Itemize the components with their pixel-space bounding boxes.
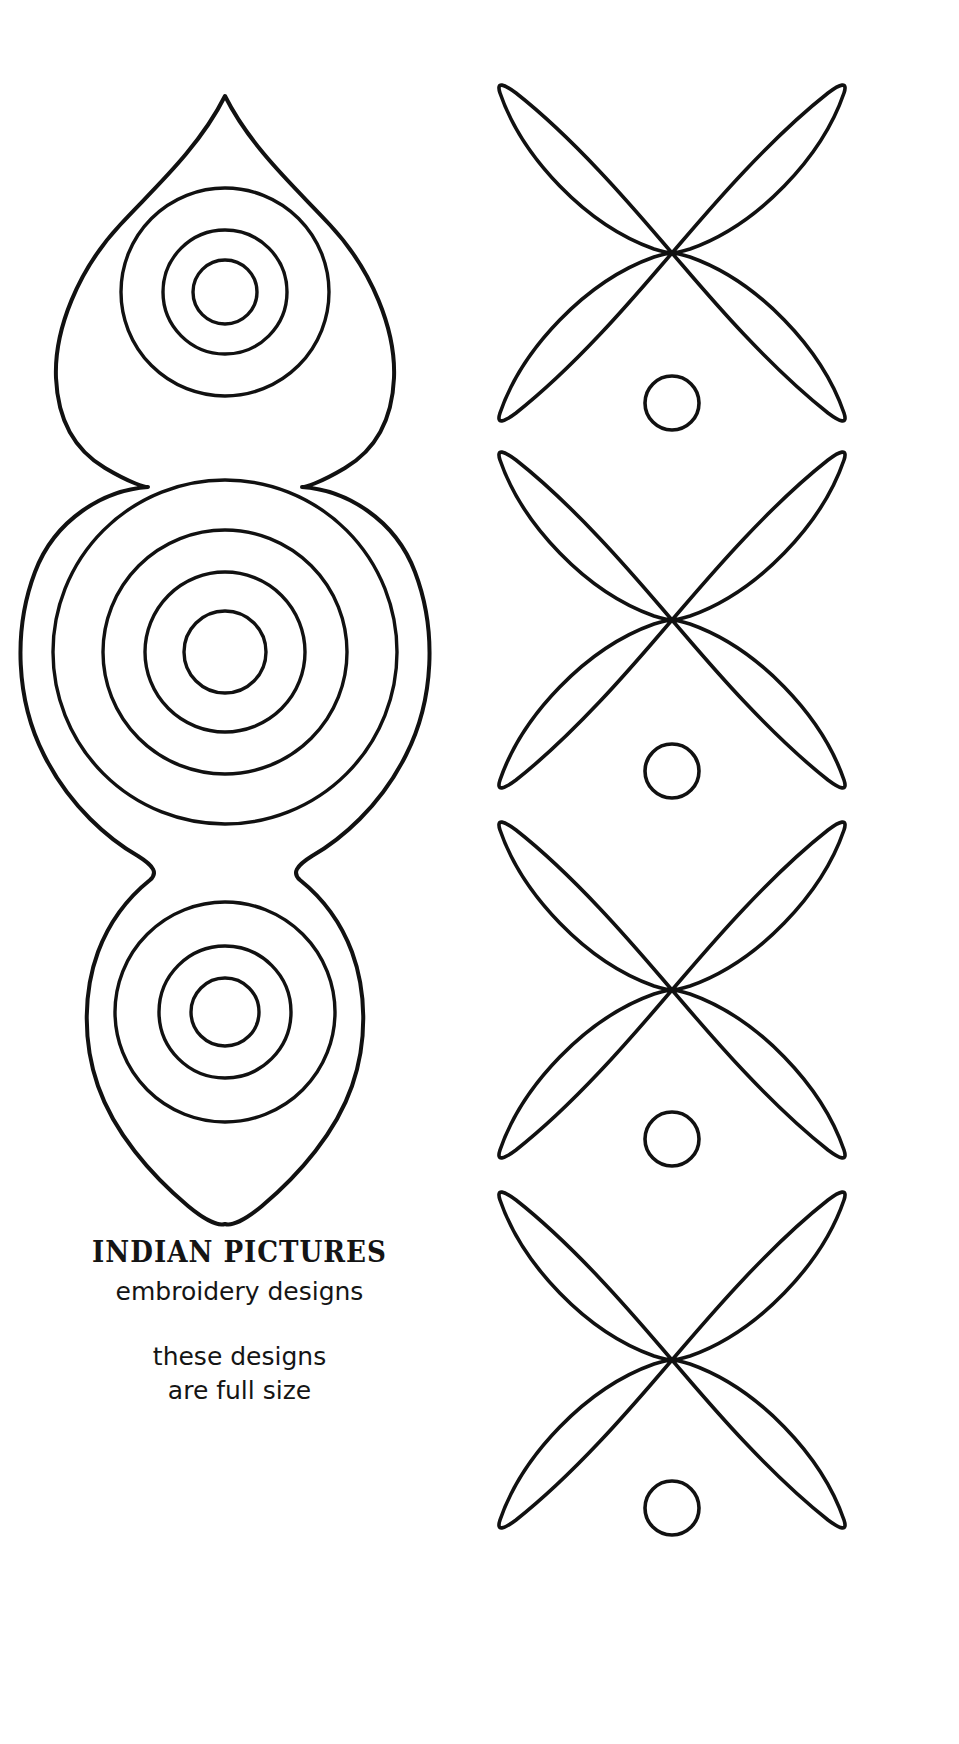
petal-motif-4 — [499, 1192, 845, 1528]
size-note-line-2: are full size — [0, 1374, 479, 1408]
petal-motif-1 — [499, 85, 845, 421]
top-circle-outer — [121, 188, 329, 396]
middle-circle-3 — [145, 572, 305, 732]
bottom-circle-inner — [191, 978, 259, 1046]
dot-3 — [645, 1112, 699, 1166]
top-circle-inner — [193, 260, 257, 324]
size-note-block: these designs are full size — [0, 1340, 479, 1408]
petal-upper-left — [499, 822, 672, 990]
petal-upper-left — [499, 1192, 672, 1360]
middle-circle-4 — [184, 611, 266, 693]
top-circle-middle — [163, 230, 287, 354]
petal-upper-right — [672, 85, 845, 253]
page-title: INDIAN PICTURES — [7, 1232, 472, 1272]
petal-upper-right — [672, 1192, 845, 1360]
petal-upper-right — [672, 452, 845, 620]
design-artboard — [0, 0, 959, 1744]
petal-upper-left — [499, 452, 672, 620]
middle-unit-concentric-circles — [53, 480, 397, 824]
middle-circle-2 — [103, 530, 347, 774]
dot-2 — [645, 744, 699, 798]
petal-upper-left — [499, 85, 672, 253]
left-paisley-chain — [20, 96, 429, 1224]
bottom-unit-concentric-circles — [115, 902, 335, 1122]
paisley-outline-path — [20, 96, 429, 1224]
petal-upper-right — [672, 822, 845, 990]
bottom-circle-outer — [115, 902, 335, 1122]
right-petal-chain — [499, 85, 845, 1535]
caption-block: INDIAN PICTURES embroidery designs — [0, 1232, 479, 1310]
dot-4 — [645, 1481, 699, 1535]
dot-1 — [645, 376, 699, 430]
petal-motif-2 — [499, 452, 845, 788]
petal-motif-3 — [499, 822, 845, 1158]
pattern-sheet-page: INDIAN PICTURES embroidery designs these… — [0, 0, 959, 1744]
size-note-line-1: these designs — [0, 1340, 479, 1374]
bottom-circle-middle — [159, 946, 291, 1078]
page-subtitle: embroidery designs — [0, 1274, 479, 1310]
top-unit-concentric-circles — [121, 188, 329, 396]
